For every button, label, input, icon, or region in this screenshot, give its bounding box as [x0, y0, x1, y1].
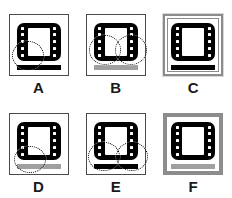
- sprocket-holes-right: [207, 27, 211, 57]
- figure-panel-grid: A: [0, 0, 232, 198]
- sprocket-holes-right: [130, 126, 134, 156]
- sprocket-hole: [53, 126, 56, 129]
- sprocket-hole: [176, 126, 179, 129]
- sprocket-hole: [21, 153, 24, 156]
- sprocket-hole: [130, 132, 133, 135]
- panel-e[interactable]: [86, 113, 146, 175]
- sprocket-hole: [21, 27, 24, 30]
- sprocket-hole: [53, 153, 56, 156]
- sprocket-holes-left: [21, 126, 25, 156]
- sprocket-hole: [21, 146, 24, 149]
- panel-d[interactable]: [9, 113, 69, 175]
- sprocket-hole: [176, 33, 179, 36]
- sprocket-holes-left: [21, 27, 25, 57]
- panel-label-a: A: [33, 80, 44, 95]
- screen-area: [105, 127, 127, 155]
- sprocket-hole: [98, 146, 101, 149]
- sprocket-hole: [21, 54, 24, 57]
- progress-bar: [94, 65, 138, 70]
- panel-b[interactable]: [86, 14, 146, 76]
- panel-label-c: C: [188, 80, 199, 95]
- panel-f[interactable]: [163, 113, 223, 175]
- panel-label-d: D: [33, 179, 44, 194]
- sprocket-hole: [21, 40, 24, 43]
- film-strip-icon: [94, 122, 138, 160]
- panel-cell-c: C: [155, 0, 232, 99]
- sprocket-hole: [176, 139, 179, 142]
- panel-label-e: E: [111, 179, 122, 194]
- panel-label-b: B: [110, 80, 121, 95]
- sprocket-holes-right: [53, 126, 57, 156]
- sprocket-hole: [98, 132, 101, 135]
- film-strip-icon: [94, 23, 138, 61]
- sprocket-hole: [53, 27, 56, 30]
- progress-bar: [171, 164, 215, 169]
- progress-bar: [17, 65, 61, 70]
- film-strip-icon: [171, 23, 215, 61]
- sprocket-hole: [21, 139, 24, 142]
- panel-cell-b: B: [77, 0, 154, 99]
- sprocket-hole: [53, 40, 56, 43]
- sprocket-hole: [176, 132, 179, 135]
- sprocket-hole: [176, 47, 179, 50]
- panel-cell-e: E: [77, 99, 154, 198]
- sprocket-hole: [21, 47, 24, 50]
- sprocket-holes-right: [130, 27, 134, 57]
- sprocket-hole: [130, 146, 133, 149]
- screen-area: [182, 127, 204, 155]
- sprocket-hole: [130, 139, 133, 142]
- sprocket-holes-left: [175, 27, 179, 57]
- film-strip-icon: [171, 122, 215, 160]
- screen-area: [182, 28, 204, 56]
- sprocket-holes-left: [98, 126, 102, 156]
- sprocket-hole: [98, 54, 101, 57]
- sprocket-hole: [98, 47, 101, 50]
- film-strip-icon: [17, 23, 61, 61]
- sprocket-hole: [98, 33, 101, 36]
- sprocket-hole: [21, 33, 24, 36]
- film-strip-icon: [17, 122, 61, 160]
- sprocket-hole: [130, 126, 133, 129]
- screen-area: [28, 28, 50, 56]
- panel-c[interactable]: [163, 14, 223, 76]
- sprocket-hole: [130, 27, 133, 30]
- sprocket-hole: [176, 153, 179, 156]
- sprocket-holes-right: [53, 27, 57, 57]
- progress-bar: [17, 164, 61, 169]
- sprocket-hole: [130, 47, 133, 50]
- sprocket-hole: [208, 47, 211, 50]
- sprocket-hole: [98, 27, 101, 30]
- sprocket-hole: [208, 132, 211, 135]
- sprocket-hole: [208, 27, 211, 30]
- sprocket-hole: [176, 27, 179, 30]
- sprocket-hole: [21, 126, 24, 129]
- sprocket-hole: [53, 47, 56, 50]
- panel-a[interactable]: [9, 14, 69, 76]
- sprocket-hole: [53, 33, 56, 36]
- sprocket-hole: [130, 54, 133, 57]
- panel-cell-f: F: [155, 99, 232, 198]
- sprocket-hole: [53, 132, 56, 135]
- progress-bar: [171, 65, 215, 70]
- sprocket-hole: [208, 54, 211, 57]
- sprocket-hole: [176, 40, 179, 43]
- sprocket-hole: [208, 139, 211, 142]
- sprocket-holes-left: [175, 126, 179, 156]
- sprocket-hole: [208, 146, 211, 149]
- panel-cell-d: D: [0, 99, 77, 198]
- sprocket-hole: [53, 139, 56, 142]
- sprocket-hole: [53, 146, 56, 149]
- sprocket-hole: [208, 40, 211, 43]
- sprocket-hole: [130, 40, 133, 43]
- sprocket-hole: [98, 139, 101, 142]
- screen-area: [28, 127, 50, 155]
- sprocket-hole: [53, 54, 56, 57]
- sprocket-hole: [98, 126, 101, 129]
- panel-grid: A: [0, 0, 232, 198]
- sprocket-hole: [21, 132, 24, 135]
- sprocket-hole: [98, 40, 101, 43]
- panel-label-f: F: [188, 179, 198, 194]
- sprocket-hole: [176, 146, 179, 149]
- progress-bar: [94, 164, 138, 169]
- sprocket-hole: [176, 54, 179, 57]
